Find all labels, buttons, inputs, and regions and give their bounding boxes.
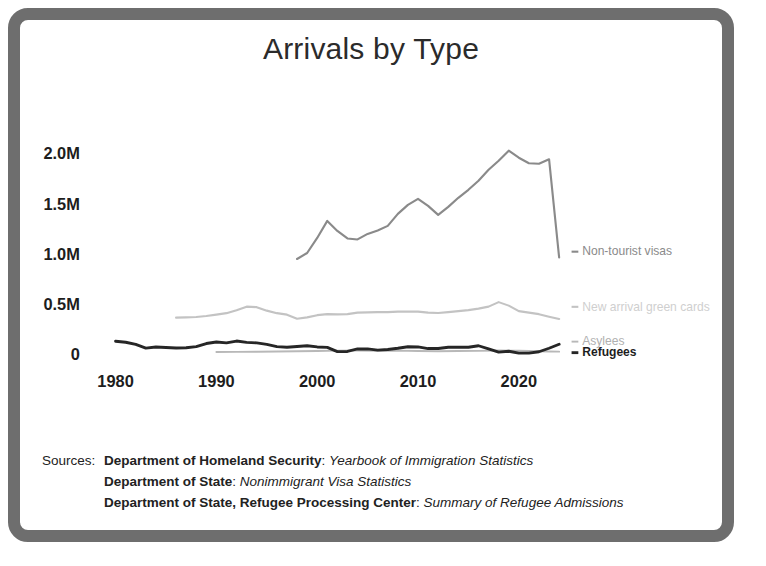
sources-row: Sources: Department of Homeland Security… <box>42 451 623 472</box>
series-line <box>116 341 560 353</box>
sources-indent <box>42 493 104 514</box>
x-axis-tick-label: 1980 <box>97 372 134 390</box>
source-line-1: Department of Homeland Security: Yearboo… <box>104 451 623 472</box>
y-axis-tick-labels: 00.5M1.0M1.5M2.0M <box>43 145 80 363</box>
x-axis-tick-label: 1990 <box>198 372 235 390</box>
source-agency: Department of State <box>104 474 232 489</box>
source-line-3: Department of State, Refugee Processing … <box>104 493 623 514</box>
source-agency: Department of Homeland Security <box>104 453 322 468</box>
sources-lead: Sources: <box>42 451 104 472</box>
source-publication: Summary of Refugee Admissions <box>424 495 624 510</box>
source-publication: Nonimmigrant Visa Statistics <box>240 474 412 489</box>
x-axis-tick-label: 2010 <box>400 372 437 390</box>
y-axis-tick-label: 0 <box>71 345 80 363</box>
sources-row: Department of State, Refugee Processing … <box>42 493 623 514</box>
series-labels: Non-tourist visasNew arrival green cards… <box>572 245 710 360</box>
series-label: New arrival green cards <box>582 300 710 314</box>
chart-card: Arrivals by Type 00.5M1.0M1.5M2.0M 19801… <box>8 8 734 542</box>
source-agency: Department of State, Refugee Processing … <box>104 495 416 510</box>
y-axis-tick-label: 2.0M <box>43 145 80 163</box>
series-label: Non-tourist visas <box>582 245 672 259</box>
sources-indent <box>42 472 104 493</box>
series-label: Refugees <box>582 346 637 360</box>
y-axis-tick-label: 0.5M <box>43 295 80 313</box>
x-axis-tick-label: 2020 <box>501 372 538 390</box>
source-publication: Yearbook of Immigration Statistics <box>329 453 533 468</box>
y-axis-tick-label: 1.5M <box>43 195 80 213</box>
source-line-2: Department of State: Nonimmigrant Visa S… <box>104 472 623 493</box>
x-axis-tick-labels: 19801990200020102020 <box>97 372 537 390</box>
sources-block: Sources: Department of Homeland Security… <box>42 451 623 514</box>
sources-row: Department of State: Nonimmigrant Visa S… <box>42 472 623 493</box>
chart-card-inner: Arrivals by Type 00.5M1.0M1.5M2.0M 19801… <box>20 20 722 530</box>
series-line <box>297 151 559 259</box>
y-axis-tick-label: 1.0M <box>43 245 80 263</box>
series-line <box>176 302 559 319</box>
x-axis-tick-label: 2000 <box>299 372 336 390</box>
series-lines <box>116 151 560 353</box>
